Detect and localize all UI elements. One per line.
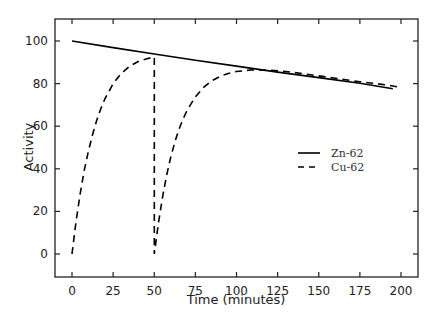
legend-label-cu62: Cu-62 [331, 161, 364, 174]
x-tick-label: 25 [105, 284, 120, 298]
x-tick-label: 50 [147, 284, 162, 298]
series-line-zn62 [72, 41, 393, 89]
x-tick-label: 0 [68, 284, 76, 298]
x-tick-label: 150 [307, 284, 330, 298]
x-tick-label: 200 [390, 284, 413, 298]
legend: Zn-62 Cu-62 [298, 147, 364, 174]
y-tick-label: 100 [25, 34, 48, 48]
y-tick-label: 80 [33, 77, 48, 91]
plot-frame [55, 19, 418, 277]
y-tick-label: 0 [40, 247, 48, 261]
y-tick-label: 20 [33, 204, 48, 218]
legend-label-zn62: Zn-62 [331, 147, 363, 160]
activity-chart: 0255075100125150175200 020406080100 Time… [0, 0, 440, 325]
x-tick-label: 175 [348, 284, 371, 298]
x-axis-label: Time (minutes) [186, 292, 286, 307]
plot-border [55, 19, 418, 277]
y-axis-label: Activity [21, 122, 36, 171]
